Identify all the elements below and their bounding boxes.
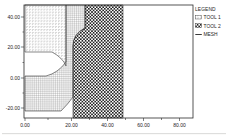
x-tick-label: 80.00 <box>173 122 186 128</box>
tool-1-swatch-icon <box>195 15 201 19</box>
x-axis: 0.00 20.00 40.00 60.00 80.00 <box>20 118 186 128</box>
tool-1-region <box>25 5 66 66</box>
legend-label-tool-2: TOOL 2 <box>204 24 221 29</box>
figure-canvas: 0.00 20.00 40.00 60.00 80.00 40.00 20.00… <box>0 0 228 135</box>
figure-bottom-edge <box>2 133 226 134</box>
legend-label-tool-1: TOOL 1 <box>204 15 221 20</box>
y-axis: 40.00 20.00 0.00 -20.00 <box>6 14 24 111</box>
tool-2-swatch-icon <box>195 24 201 28</box>
x-tick-label: 20.00 <box>65 122 78 128</box>
fem-plot-figure: 0.00 20.00 40.00 60.00 80.00 40.00 20.00… <box>0 0 228 135</box>
legend-title: LEGEND <box>195 7 216 12</box>
x-tick-label: 0.00 <box>20 122 30 128</box>
y-tick-label: 20.00 <box>7 44 20 50</box>
y-tick-label: 40.00 <box>7 14 20 20</box>
y-tick-label: 0.00 <box>10 75 20 81</box>
legend: LEGEND TOOL 1 TOOL 2 MESH <box>195 7 221 38</box>
x-tick-label: 40.00 <box>101 122 114 128</box>
legend-label-mesh: MESH <box>204 32 219 37</box>
y-tick-label: -20.00 <box>6 105 20 111</box>
x-tick-label: 60.00 <box>137 122 150 128</box>
